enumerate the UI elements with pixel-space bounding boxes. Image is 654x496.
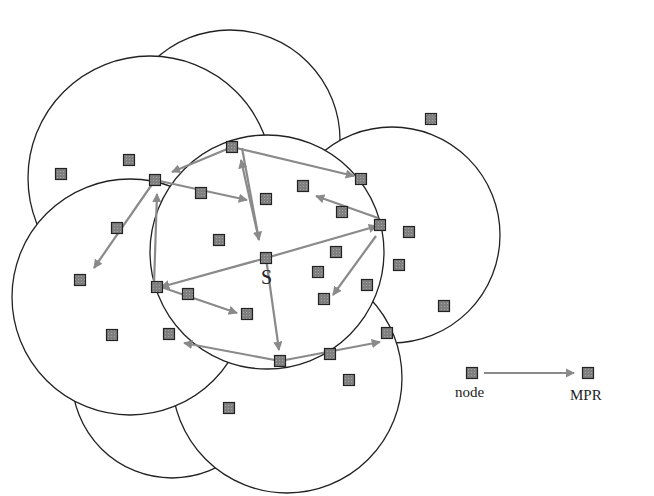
mpr-diagram: S node MPR [0, 0, 654, 496]
node-icon [124, 155, 135, 166]
node-icon [313, 267, 324, 278]
node-icon [362, 280, 373, 291]
diagram-canvas: S node MPR [0, 0, 654, 496]
node-icon [227, 142, 238, 153]
node-icon [337, 207, 348, 218]
node-icon [404, 227, 415, 238]
node-icon [319, 294, 330, 305]
node-icon [164, 329, 175, 340]
node-icon [112, 223, 123, 234]
legend-node-icon [583, 368, 594, 379]
legend-mpr-label: MPR [570, 387, 602, 403]
node-icon [183, 289, 194, 300]
node-icon [426, 114, 437, 125]
legend-node-icon [467, 368, 478, 379]
source-label: S [261, 266, 272, 288]
node-icon [331, 247, 342, 258]
node-icon [196, 188, 207, 199]
node-icon [375, 220, 386, 231]
node-icon [394, 260, 405, 271]
node-icon [439, 301, 450, 312]
node-icon [152, 282, 163, 293]
legend-node-label: node [455, 384, 485, 400]
node-icon [214, 235, 225, 246]
node-icon [56, 169, 67, 180]
node-icon [242, 309, 253, 320]
node-icon [261, 194, 272, 205]
node-icon [356, 174, 367, 185]
node-icon [75, 275, 86, 286]
node-icon [107, 330, 118, 341]
node-icon [325, 349, 336, 360]
node-icon [344, 375, 355, 386]
node-icon [224, 403, 235, 414]
node-icon [261, 253, 272, 264]
node-icon [382, 328, 393, 339]
node-icon [150, 175, 161, 186]
node-icon [275, 356, 286, 367]
node-icon [298, 181, 309, 192]
